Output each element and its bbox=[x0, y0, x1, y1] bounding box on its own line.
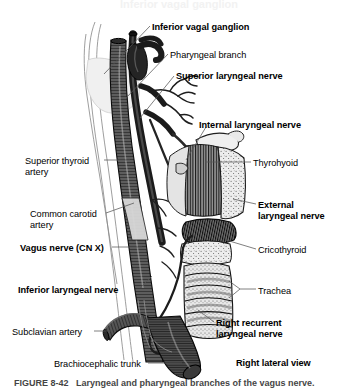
thyroid-cartilage bbox=[218, 147, 245, 219]
label-common-carotid-artery: Common carotid artery bbox=[30, 209, 97, 230]
thyrohyoid-muscle bbox=[184, 145, 222, 217]
internal-laryngeal-nerve bbox=[146, 112, 173, 134]
label-pharyngeal-branch: Pharyngeal branch bbox=[170, 50, 246, 61]
label-inferior-vagal-ganglion: Inferior vagal ganglion bbox=[152, 22, 249, 33]
figure-canvas: Inferior vagal ganglion Pharyngeal branc… bbox=[0, 0, 351, 389]
label-thyrohyoid: Thyrohyoid bbox=[253, 158, 298, 169]
label-internal-laryngeal-nerve: Internal laryngeal nerve bbox=[199, 120, 301, 131]
label-superior-laryngeal-nerve: Superior laryngeal nerve bbox=[176, 71, 283, 82]
label-superior-thyroid-artery: Superior thyroid artery bbox=[25, 156, 89, 177]
cricoid-cartilage bbox=[181, 241, 232, 265]
figure-caption: FIGURE 8-42 Laryngeal and pharyngeal bra… bbox=[14, 378, 315, 388]
label-subclavian-artery: Subclavian artery bbox=[12, 327, 82, 338]
label-right-lateral-view: Right lateral view bbox=[236, 358, 311, 369]
label-inferior-laryngeal-nerve: Inferior laryngeal nerve bbox=[18, 285, 118, 296]
label-brachiocephalic-trunk: Brachiocephalic trunk bbox=[54, 359, 141, 370]
label-trachea: Trachea bbox=[258, 286, 291, 297]
label-external-laryngeal-nerve: External laryngeal nerve bbox=[258, 200, 325, 221]
label-vagus-nerve-cn-x: Vagus nerve (CN X) bbox=[20, 243, 104, 254]
page-bleed-text: Inferior vagal ganglion bbox=[120, 0, 238, 10]
label-cricothyroid: Cricothyroid bbox=[258, 245, 306, 256]
thyroid-cartilage-anterior bbox=[167, 146, 189, 216]
label-right-recurrent-laryngeal-nerve: Right recurrent laryngeal nerve bbox=[216, 318, 283, 339]
